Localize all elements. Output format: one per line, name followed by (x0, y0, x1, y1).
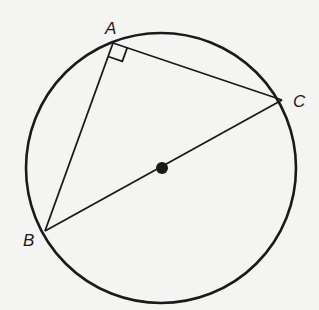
segment-ab (45, 43, 113, 231)
center-point (156, 162, 168, 174)
label-c: C (293, 92, 305, 112)
label-a: A (105, 19, 116, 39)
label-b: B (23, 231, 34, 251)
geometry-diagram (0, 0, 319, 310)
